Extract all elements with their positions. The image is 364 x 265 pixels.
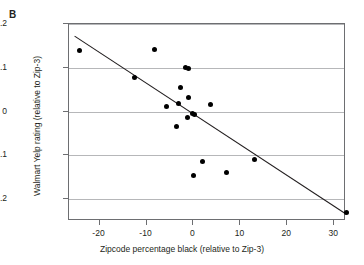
y-tick-label: 0 xyxy=(0,106,7,116)
x-tick-mark xyxy=(239,220,240,225)
scatter-point xyxy=(174,124,179,129)
x-tick-label: -20 xyxy=(92,228,104,238)
scatter-point xyxy=(200,159,205,164)
x-axis-title: Zipcode percentage black (relative to Zi… xyxy=(0,244,364,254)
panel-label: B xyxy=(9,9,16,20)
x-tick-label: 30 xyxy=(329,228,338,238)
x-tick-mark xyxy=(99,220,100,225)
y-tick-label: .1 xyxy=(0,62,7,72)
scatter-series xyxy=(69,24,344,219)
x-tick-label: 10 xyxy=(235,228,244,238)
scatter-point xyxy=(186,95,191,100)
scatter-point xyxy=(185,115,190,120)
x-tick-label: 20 xyxy=(282,228,291,238)
y-tick-label: .2 xyxy=(0,18,7,28)
x-tick-label: -10 xyxy=(139,228,151,238)
scatter-point xyxy=(208,102,213,107)
y-tick-label: -.1 xyxy=(0,149,7,159)
y-tick-mark xyxy=(63,23,68,24)
scatter-point xyxy=(191,173,196,178)
scatter-point xyxy=(186,66,191,71)
x-tick-mark xyxy=(333,220,334,225)
scatter-point xyxy=(252,157,257,162)
y-tick-mark xyxy=(63,198,68,199)
figure-panel-b: B .2.10-.1-.2 Walmart Yelp rating (relat… xyxy=(0,0,364,265)
y-tick-mark xyxy=(63,111,68,112)
x-tick-mark xyxy=(192,220,193,225)
x-tick-mark xyxy=(146,220,147,225)
scatter-point xyxy=(132,75,137,80)
y-tick-mark xyxy=(63,67,68,68)
scatter-point xyxy=(176,101,181,106)
scatter-point xyxy=(192,112,197,117)
x-tick-label: 0 xyxy=(190,228,195,238)
y-axis-title: Walmart Yelp rating (relative to Zip-3) xyxy=(32,26,42,226)
scatter-point xyxy=(344,210,349,215)
scatter-point xyxy=(178,85,183,90)
scatter-point xyxy=(77,48,82,53)
plot-area xyxy=(68,23,345,220)
y-tick-label: -.2 xyxy=(0,193,7,203)
scatter-point xyxy=(224,170,229,175)
x-tick-mark xyxy=(286,220,287,225)
scatter-point xyxy=(164,104,169,109)
scatter-point xyxy=(152,47,157,52)
y-tick-mark xyxy=(63,154,68,155)
